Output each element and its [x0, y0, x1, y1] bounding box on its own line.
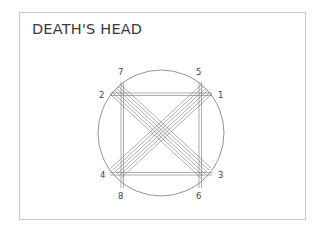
point-label-7: 7	[118, 67, 123, 77]
vertical-strands	[121, 82, 202, 188]
diagonal-strands-a	[110, 84, 211, 178]
point-label-1: 1	[218, 90, 223, 100]
diagonal-strands-b	[111, 84, 212, 178]
point-label-8: 8	[118, 191, 123, 201]
point-label-3: 3	[218, 170, 223, 180]
point-label-6: 6	[196, 191, 201, 201]
point-label-2: 2	[99, 90, 104, 100]
point-label-4: 4	[100, 170, 105, 180]
point-label-5: 5	[196, 67, 201, 77]
deaths-head-diagram: 7 5 2 1 4 3 8 6	[0, 0, 327, 231]
